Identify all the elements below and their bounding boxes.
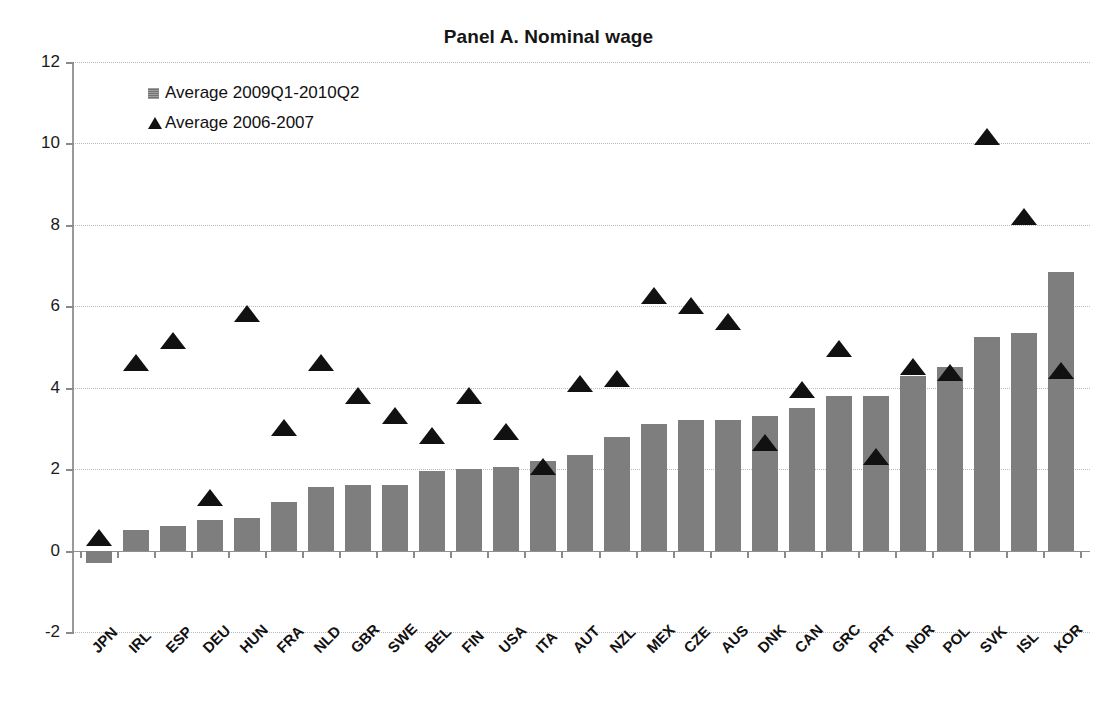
x-tick <box>376 551 378 558</box>
y-tick-label: -2 <box>45 622 60 642</box>
bar-HUN <box>234 518 260 551</box>
marker-AUS <box>715 313 741 330</box>
y-tick-label: 6 <box>51 296 60 316</box>
marker-NOR <box>900 358 926 375</box>
chart-root: Panel A. Nominal wage -2024681012 JPNIRL… <box>0 0 1097 710</box>
x-tick <box>599 551 601 558</box>
x-tick <box>80 551 82 558</box>
x-tick <box>1006 551 1008 558</box>
y-tick-label: 2 <box>51 459 60 479</box>
x-tick <box>1043 551 1045 558</box>
bar-SVK <box>974 337 1000 551</box>
x-tick <box>636 551 638 558</box>
page-title: Panel A. Nominal wage <box>0 26 1097 48</box>
legend: Average 2009Q1-2010Q2 Average 2006-2007 <box>148 78 359 138</box>
marker-KOR <box>1048 362 1074 379</box>
marker-DNK <box>752 434 778 451</box>
bar-USA <box>493 467 519 550</box>
bar-AUS <box>715 420 741 550</box>
marker-JPN <box>86 529 112 546</box>
marker-SVK <box>974 128 1000 145</box>
bar-PRT <box>863 396 889 551</box>
y-tick-label: 10 <box>41 133 60 153</box>
marker-AUT <box>567 375 593 392</box>
x-tick <box>117 551 119 558</box>
bar-ISL <box>1011 333 1037 551</box>
marker-CAN <box>789 381 815 398</box>
triangle-swatch-icon <box>148 117 162 129</box>
marker-HUN <box>234 305 260 322</box>
bar-MEX <box>641 424 667 550</box>
marker-CZE <box>678 297 704 314</box>
bar-GBR <box>345 485 371 550</box>
x-tick <box>191 551 193 558</box>
plot-area: -2024681012 <box>72 62 1090 632</box>
marker-ITA <box>530 458 556 475</box>
x-tick <box>1080 551 1082 558</box>
x-tick <box>339 551 341 558</box>
bar-ESP <box>160 526 186 550</box>
bar-BEL <box>419 471 445 550</box>
bar-FIN <box>456 469 482 550</box>
legend-item-triangle: Average 2006-2007 <box>148 108 359 138</box>
bar-NLD <box>308 487 334 550</box>
x-tick <box>895 551 897 558</box>
x-tick <box>228 551 230 558</box>
x-tick <box>710 551 712 558</box>
marker-SWE <box>382 407 408 424</box>
marker-NLD <box>308 354 334 371</box>
bar-AUT <box>567 455 593 551</box>
x-tick <box>524 551 526 558</box>
x-tick <box>747 551 749 558</box>
x-tick <box>265 551 267 558</box>
marker-POL <box>937 364 963 381</box>
bar-NZL <box>604 437 630 551</box>
marker-DEU <box>197 489 223 506</box>
x-tick <box>821 551 823 558</box>
y-tick-label: 12 <box>41 52 60 72</box>
marker-FIN <box>456 387 482 404</box>
x-tick <box>858 551 860 558</box>
bar-FRA <box>271 502 297 551</box>
marker-ESP <box>160 332 186 349</box>
y-tick--2 <box>66 632 74 634</box>
bar-CAN <box>789 408 815 551</box>
x-tick <box>413 551 415 558</box>
x-tick <box>302 551 304 558</box>
x-tick <box>673 551 675 558</box>
x-tick <box>932 551 934 558</box>
x-tick <box>561 551 563 558</box>
bar-GRC <box>826 396 852 551</box>
series-layer <box>72 62 1090 632</box>
bar-KOR <box>1048 272 1074 551</box>
legend-item-bar: Average 2009Q1-2010Q2 <box>148 78 359 108</box>
bar-POL <box>937 367 963 550</box>
bar-CZE <box>678 420 704 550</box>
marker-GBR <box>345 387 371 404</box>
bar-swatch-icon <box>148 88 159 99</box>
bar-JPN <box>86 551 112 563</box>
bar-DEU <box>197 520 223 551</box>
bar-SWE <box>382 485 408 550</box>
marker-NZL <box>604 370 630 387</box>
bar-NOR <box>900 376 926 551</box>
marker-PRT <box>863 448 889 465</box>
x-tick <box>487 551 489 558</box>
x-tick <box>450 551 452 558</box>
y-tick-label: 8 <box>51 215 60 235</box>
x-tick <box>154 551 156 558</box>
marker-FRA <box>271 419 297 436</box>
x-tick <box>784 551 786 558</box>
marker-ISL <box>1011 208 1037 225</box>
y-tick-label: 0 <box>51 541 60 561</box>
legend-label-triangle: Average 2006-2007 <box>165 113 314 133</box>
marker-MEX <box>641 287 667 304</box>
bar-IRL <box>123 530 149 550</box>
marker-BEL <box>419 427 445 444</box>
marker-GRC <box>826 340 852 357</box>
legend-label-bar: Average 2009Q1-2010Q2 <box>165 83 359 103</box>
marker-IRL <box>123 354 149 371</box>
y-tick-label: 4 <box>51 378 60 398</box>
marker-USA <box>493 423 519 440</box>
x-tick <box>969 551 971 558</box>
